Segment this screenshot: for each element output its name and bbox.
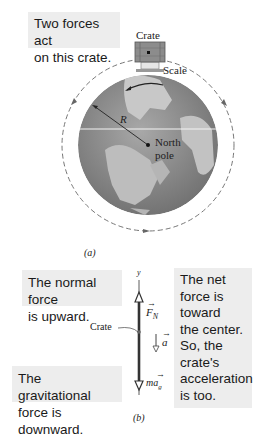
normal-force-arrowhead xyxy=(135,292,143,302)
callout-gravitational-force: The gravitational force is downward. xyxy=(12,366,122,402)
callout-line: force is xyxy=(180,289,246,306)
crate-label: Crate xyxy=(136,29,160,41)
callout-line: The net xyxy=(180,272,246,289)
north-pole-label-line: pole xyxy=(155,149,174,161)
callout-normal-force: The normal force is upward. xyxy=(22,270,122,306)
callout-line: the center. xyxy=(180,322,246,339)
crate-icon xyxy=(135,42,165,62)
acceleration-arrowhead xyxy=(153,346,159,352)
callout-line: The gravitational xyxy=(18,370,116,404)
caption-a: (a) xyxy=(84,247,96,258)
north-pole-label-line: North xyxy=(155,136,181,148)
crate-label-b: Crate xyxy=(90,321,112,332)
north-pole-label: North pole xyxy=(155,136,181,162)
caption-b: (b) xyxy=(133,412,145,423)
north-pole-dot xyxy=(146,143,150,147)
callout-line: The normal force xyxy=(28,274,116,308)
gravity-force-arrowhead xyxy=(135,381,143,390)
normal-force-subscript: N xyxy=(153,312,158,321)
scale xyxy=(141,62,159,69)
radius-label: R xyxy=(120,113,127,125)
callout-line: acceleration xyxy=(180,371,246,388)
gravity-force-label: → mag xyxy=(146,377,162,391)
y-axis-label: y xyxy=(137,268,141,277)
orbit-arrow-bottom xyxy=(143,229,150,233)
scale-label: Scale xyxy=(163,64,187,76)
acceleration-label: → a xyxy=(162,336,168,348)
callout-net-force: The net force is toward the center. So, … xyxy=(174,268,252,408)
callout-line: toward xyxy=(180,305,246,322)
callout-line: is too. xyxy=(180,388,246,405)
callout-line: crate's xyxy=(180,355,246,372)
orbit-arrow-left xyxy=(71,98,77,105)
normal-force-label: → FN xyxy=(146,306,158,321)
callout-line: force is downward. xyxy=(18,404,116,438)
crate-leader-line xyxy=(118,328,138,333)
callout-line: So, the xyxy=(180,338,246,355)
gravity-force-subscript: g xyxy=(158,383,162,391)
